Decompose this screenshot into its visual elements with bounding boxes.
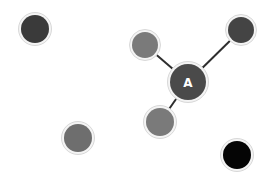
node-label: A [183,76,193,90]
node-circle [146,108,174,136]
node-n5[interactable] [144,106,177,139]
node-n3[interactable] [226,15,257,46]
graph-canvas: A [0,0,274,185]
nodes-group: A [19,13,257,172]
node-circle [21,15,49,43]
node-n1[interactable] [19,13,52,46]
node-n2[interactable] [130,30,161,61]
node-circle [64,124,92,152]
node-circle [228,17,254,43]
node-n6[interactable] [62,122,95,155]
node-circle [223,141,251,169]
node-n7[interactable] [221,139,254,172]
node-A[interactable]: A [168,62,209,103]
node-circle [132,32,158,58]
